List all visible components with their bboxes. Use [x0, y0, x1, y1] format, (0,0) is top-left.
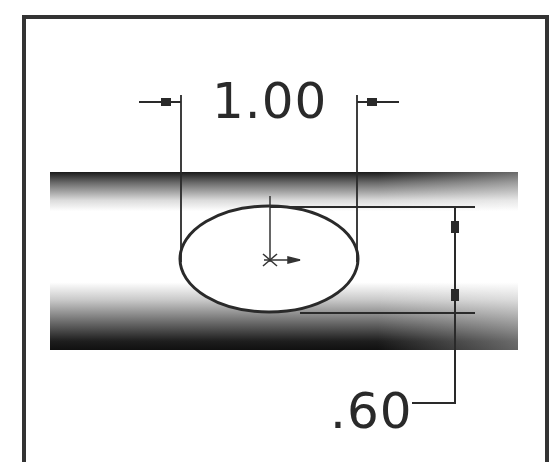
arrow-down-icon: [451, 289, 459, 301]
height-dimension-label[interactable]: .60: [330, 386, 413, 436]
width-dimension-label[interactable]: 1.00: [212, 76, 327, 126]
arrow-right-icon: [367, 98, 377, 106]
drawing-canvas: [0, 0, 555, 462]
arrow-left-icon: [161, 98, 171, 106]
arrow-up-icon: [451, 221, 459, 233]
